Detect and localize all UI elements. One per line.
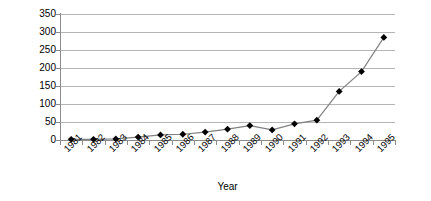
data-point-markers [68, 34, 387, 143]
x-axis-tick-mark [60, 141, 61, 145]
data-point-marker [291, 120, 298, 127]
data-point-marker [246, 122, 253, 129]
y-axis-tick-mark [56, 14, 60, 15]
line-chart: Millions of RMB 050100150200250300350 Ye… [0, 0, 431, 201]
x-axis-tick-mark [105, 141, 106, 145]
y-axis-tick-mark [56, 104, 60, 105]
x-axis-tick-mark [261, 141, 262, 145]
y-axis-tick-mark [56, 32, 60, 33]
x-axis-title: Year [178, 181, 278, 192]
x-axis-tick-mark [350, 141, 351, 145]
x-axis-tick-mark [395, 141, 396, 145]
x-axis-tick-mark [172, 141, 173, 145]
x-axis-tick-mark [306, 141, 307, 145]
x-axis-tick-mark [328, 141, 329, 145]
x-axis-tick-mark [239, 141, 240, 145]
x-axis-tick-mark [149, 141, 150, 145]
x-axis-tick-mark [127, 141, 128, 145]
y-axis-tick-mark [56, 68, 60, 69]
y-axis-tick-mark [56, 50, 60, 51]
x-axis-tick-mark [373, 141, 374, 145]
x-axis-tick-mark [82, 141, 83, 145]
data-point-marker [380, 34, 387, 41]
data-point-marker [224, 126, 231, 133]
data-series-line [0, 0, 431, 201]
y-axis-tick-mark [56, 86, 60, 87]
x-axis-tick-mark [194, 141, 195, 145]
x-axis-tick-mark [283, 141, 284, 145]
x-axis-tick-mark [216, 141, 217, 145]
y-axis-tick-mark [56, 122, 60, 123]
